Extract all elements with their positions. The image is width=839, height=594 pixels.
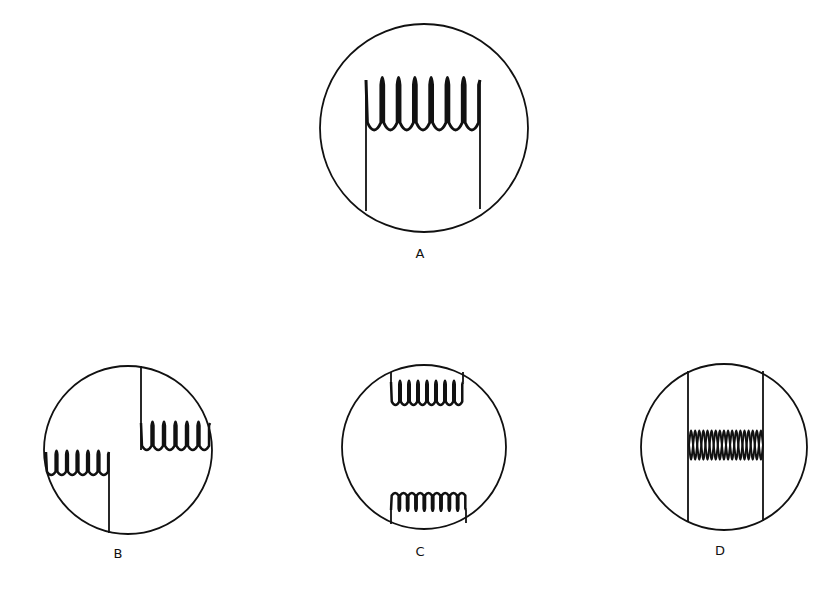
panel-c: C: [342, 365, 506, 559]
panel-b-label: B: [114, 546, 123, 561]
panel-a-coil: [366, 78, 480, 212]
panel-b-circle: [44, 366, 212, 534]
panel-b-coils: [46, 366, 210, 533]
panel-c-coils: [391, 372, 466, 524]
panel-d-label: D: [715, 543, 725, 558]
panel-d-circle: [641, 364, 807, 530]
panel-c-label: C: [415, 544, 424, 559]
panel-a-label: A: [416, 246, 425, 261]
panel-a: A: [320, 24, 528, 261]
panel-d: D: [641, 364, 807, 558]
panel-a-circle: [320, 24, 528, 232]
coil-wave: [391, 381, 463, 405]
coil-wave: [366, 78, 480, 131]
coil-wave: [46, 451, 109, 475]
coil-diagram: A B C D: [0, 0, 839, 594]
panel-d-coil: [688, 371, 763, 522]
coil-wave: [141, 422, 210, 450]
coil-wave: [391, 493, 466, 511]
panel-b: B: [44, 366, 212, 561]
